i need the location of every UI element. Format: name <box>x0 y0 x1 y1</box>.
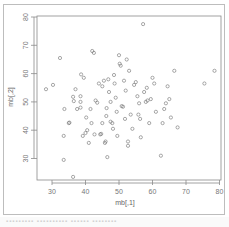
data-point <box>79 95 82 98</box>
data-point <box>151 76 154 79</box>
y-tick-label: 80 <box>22 13 29 21</box>
data-point <box>86 129 89 132</box>
y-axis: 304050607080 <box>22 13 37 162</box>
data-point <box>124 89 127 92</box>
data-point <box>85 116 88 119</box>
data-point <box>107 90 110 93</box>
x-tick-label: 60 <box>149 188 157 195</box>
data-point <box>153 82 156 85</box>
data-point <box>105 114 108 117</box>
data-point <box>143 90 146 93</box>
data-point <box>90 122 93 125</box>
data-point <box>102 79 105 82</box>
data-point <box>101 85 104 88</box>
x-tick-label: 70 <box>182 188 190 195</box>
data-point <box>168 98 171 101</box>
y-tick-label: 60 <box>22 70 29 78</box>
data-point <box>72 175 75 178</box>
x-tick-label: 50 <box>115 188 123 195</box>
x-axis: 304050607080 <box>48 180 223 195</box>
data-point <box>113 82 116 85</box>
data-point <box>96 101 99 104</box>
y-tick-label: 50 <box>22 98 29 106</box>
data-point <box>81 134 84 137</box>
data-point <box>169 116 172 119</box>
data-point <box>112 73 115 76</box>
y-tick-label: 40 <box>22 126 29 134</box>
x-tick-label: 80 <box>216 188 224 195</box>
status-text: ▪▪▪▪▪▪▪▪▪ ▪▪▪▪▪▪▪▪▪▪ ▪▪▪▪▪▪ ▪▪▪▪▪▪▪▪ <box>6 218 117 224</box>
data-point <box>51 83 54 86</box>
data-point <box>126 140 129 143</box>
data-point <box>97 82 100 85</box>
data-point <box>105 107 108 110</box>
data-point <box>80 73 83 76</box>
data-point <box>116 134 119 137</box>
data-point <box>134 81 137 84</box>
data-point <box>100 132 103 135</box>
data-point <box>62 134 65 137</box>
data-point <box>166 85 169 88</box>
x-axis-title: mb[,1] <box>115 199 135 207</box>
data-point <box>149 98 152 101</box>
data-point <box>129 113 132 116</box>
data-point <box>82 76 85 79</box>
data-point <box>72 95 75 98</box>
data-point <box>93 133 96 136</box>
data-point <box>131 127 134 130</box>
data-point <box>136 95 139 98</box>
data-point <box>161 122 164 125</box>
data-point <box>117 54 120 57</box>
data-point <box>89 107 92 110</box>
data-point <box>213 69 216 72</box>
data-point <box>128 69 131 72</box>
y-axis-title: mb[,2] <box>7 87 15 107</box>
data-point <box>94 99 97 102</box>
y-tick-label: 30 <box>22 155 29 163</box>
data-point <box>87 141 90 144</box>
data-point <box>126 144 129 147</box>
data-point <box>159 154 162 157</box>
data-point <box>142 23 145 26</box>
data-point <box>111 127 114 130</box>
data-point <box>101 122 104 125</box>
data-point <box>72 100 75 103</box>
data-point <box>203 82 206 85</box>
plot-box <box>37 16 221 180</box>
data-point <box>139 117 142 120</box>
data-point <box>106 156 109 159</box>
data-point <box>173 69 176 72</box>
x-tick-label: 40 <box>82 188 90 195</box>
data-point <box>63 107 66 110</box>
data-point <box>148 122 151 125</box>
data-point <box>138 102 141 105</box>
data-point <box>137 113 140 116</box>
data-point <box>122 79 125 82</box>
data-point <box>125 58 128 61</box>
data-point <box>109 100 112 103</box>
data-point <box>115 110 118 113</box>
data-point <box>62 158 65 161</box>
data-point <box>107 78 110 81</box>
data-point <box>114 96 117 99</box>
data-point <box>79 106 82 109</box>
data-point <box>79 100 82 103</box>
x-tick-label: 30 <box>48 188 56 195</box>
data-point <box>44 88 47 91</box>
data-point <box>123 117 126 120</box>
scatter-plot: 304050607080 304050607080 mb[,1] mb[,2] <box>0 0 229 227</box>
y-tick-label: 70 <box>22 41 29 49</box>
data-points <box>44 23 216 179</box>
data-point <box>163 107 166 110</box>
data-point <box>139 136 142 139</box>
data-point <box>154 110 157 113</box>
data-point <box>145 86 148 89</box>
data-point <box>58 56 61 59</box>
data-point <box>76 107 79 110</box>
data-point <box>164 102 167 105</box>
data-point <box>176 126 179 129</box>
data-point <box>74 88 77 91</box>
